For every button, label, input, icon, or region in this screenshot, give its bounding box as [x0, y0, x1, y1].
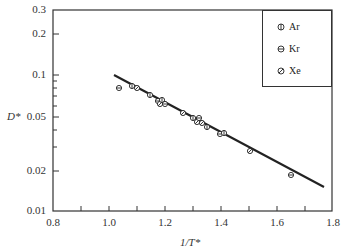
data-point-xe — [180, 110, 185, 115]
legend-label: Kr — [289, 43, 300, 54]
fit-line — [114, 75, 324, 187]
y-tick-label: 0.02 — [27, 164, 46, 176]
data-point-ar — [147, 92, 152, 97]
x-tick-label: 0.8 — [46, 216, 60, 228]
data-point-kr — [196, 115, 201, 120]
legend-label: Ar — [289, 21, 300, 32]
y-axis-ticks — [53, 34, 59, 171]
legend-item-kr: Kr — [277, 43, 300, 54]
x-tick-label: 1.6 — [270, 216, 284, 228]
legend-item-ar: Ar — [277, 21, 300, 32]
legend-label: Xe — [289, 65, 301, 76]
x-axis-title: 1/T* — [180, 236, 200, 248]
legend: Ar Kr Xe — [262, 10, 332, 87]
data-point-ar — [190, 115, 195, 120]
data-point-xe — [134, 85, 139, 90]
data-point-kr — [162, 101, 167, 106]
y-axis-title: D* — [7, 110, 20, 122]
data-points — [116, 83, 293, 177]
x-tick-label: 1.8 — [326, 216, 340, 228]
circle-horizontal-bar-icon — [277, 45, 285, 53]
data-point-kr — [288, 172, 293, 177]
data-point-ar — [221, 130, 226, 135]
y-tick-label: 0.3 — [32, 3, 46, 15]
x-tick-label: 1.4 — [214, 216, 228, 228]
circle-vertical-bar-icon — [277, 23, 285, 31]
x-tick-label: 1.2 — [158, 216, 172, 228]
circle-slash-icon — [277, 67, 285, 75]
data-point-xe — [247, 148, 252, 153]
data-point-xe — [199, 120, 204, 125]
x-axis-ticks — [81, 206, 305, 211]
y-tick-label: 0.1 — [32, 68, 46, 80]
data-point-ar — [204, 124, 209, 129]
y-tick-label: 0.05 — [27, 110, 46, 122]
x-tick-label: 1.0 — [102, 216, 116, 228]
data-point-ar — [129, 83, 134, 88]
data-point-kr — [116, 85, 121, 90]
legend-item-xe: Xe — [277, 65, 301, 76]
y-tick-label: 0.2 — [32, 27, 46, 39]
y-tick-label: 0.01 — [27, 204, 46, 216]
